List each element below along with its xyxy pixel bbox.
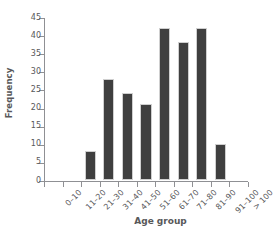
x-axis-tick-mark xyxy=(211,182,212,187)
x-axis-tick-mark xyxy=(137,182,138,187)
bar-chart: Frequency 051015202530354045 0–1011–2021… xyxy=(0,0,273,235)
y-axis-tick-label: 45 xyxy=(31,13,41,23)
y-axis-tick-label: 20 xyxy=(31,103,41,113)
y-axis-tick-label: 40 xyxy=(31,31,41,41)
bar xyxy=(159,28,170,180)
y-axis-tick-label: 5 xyxy=(36,157,41,167)
x-axis-tick-mark xyxy=(229,182,230,187)
bar xyxy=(103,79,114,180)
y-axis-tick-label: 10 xyxy=(31,139,41,149)
y-axis-tick-label: 35 xyxy=(31,49,41,59)
y-axis-tick-label: 25 xyxy=(31,85,41,95)
x-axis-line xyxy=(44,181,248,182)
x-axis-tick-mark xyxy=(248,182,249,187)
bar xyxy=(85,151,96,180)
bar xyxy=(122,93,133,180)
y-axis-line xyxy=(44,18,45,182)
x-axis-tick-mark xyxy=(100,182,101,187)
bar xyxy=(196,28,207,180)
x-axis-title: Age group xyxy=(0,216,273,226)
x-axis-tick-mark xyxy=(44,182,45,187)
bar xyxy=(140,104,151,180)
y-axis-tick-label: 30 xyxy=(31,67,41,77)
x-axis-tick-label: 61–70 xyxy=(177,188,201,212)
y-axis-title: Frequency xyxy=(0,0,18,185)
y-axis-title-label: Frequency xyxy=(4,67,14,118)
y-axis-tick-label: 15 xyxy=(31,121,41,131)
x-axis-tick-mark xyxy=(174,182,175,187)
bar xyxy=(178,42,189,180)
bar xyxy=(215,144,226,180)
x-axis-tick-mark xyxy=(118,182,119,187)
x-axis-tick-label: 0–10 xyxy=(64,188,84,208)
y-axis-tick-label: 0 xyxy=(36,176,41,186)
x-axis-tick-label: 51–60 xyxy=(158,188,182,212)
x-axis-title-label: Age group xyxy=(86,216,187,226)
x-axis-tick-mark xyxy=(192,182,193,187)
x-axis-tick-label: 21–30 xyxy=(102,188,126,212)
x-axis-tick-mark xyxy=(155,182,156,187)
x-axis-tick-mark xyxy=(63,182,64,187)
x-axis-tick-label: 41–50 xyxy=(140,188,164,212)
plot-area: 051015202530354045 xyxy=(44,18,248,181)
x-axis-tick-mark xyxy=(81,182,82,187)
